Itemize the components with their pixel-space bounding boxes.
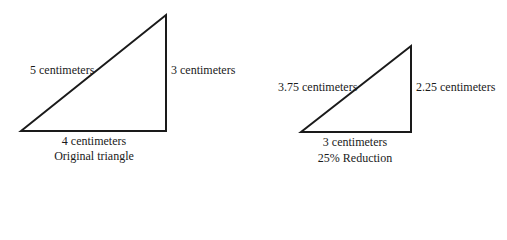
- reduced-caption: 25% Reduction: [318, 151, 392, 165]
- reduced-hypotenuse-label: 3.75 centimeters: [278, 80, 357, 94]
- original-caption: Original triangle: [54, 149, 134, 163]
- reduced-vertical-leg-label: 2.25 centimeters: [416, 80, 495, 94]
- original-hypotenuse-label: 5 centimeters: [30, 63, 94, 77]
- reduced-base-label: 3 centimeters: [323, 135, 387, 149]
- original-vertical-leg-label: 3 centimeters: [171, 63, 235, 77]
- original-base-label: 4 centimeters: [62, 134, 126, 148]
